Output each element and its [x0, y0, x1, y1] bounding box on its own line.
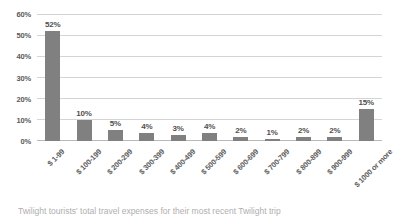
x-axis-slot: $ 1000 or more — [351, 142, 382, 194]
bar: 4% — [139, 133, 154, 142]
bar-value-label: 15% — [359, 98, 374, 107]
bar: 52% — [45, 31, 60, 141]
bar-slot: 52% — [37, 14, 68, 141]
y-axis-tick: 0% — [21, 137, 31, 146]
bar-slot: 5% — [100, 14, 131, 141]
bar: 10% — [77, 120, 92, 141]
bar-slot: 15% — [351, 14, 382, 141]
x-axis-slot: $ 800-899 — [288, 142, 319, 194]
bar: 3% — [171, 135, 186, 141]
bar-value-label: 2% — [235, 126, 246, 135]
x-axis-slot: $ 400-499 — [162, 142, 193, 194]
bar: 2% — [296, 137, 311, 141]
bar-value-label: 10% — [76, 109, 91, 118]
x-axis-slot: $ 500-599 — [194, 142, 225, 194]
y-axis-tick: 40% — [17, 52, 31, 61]
x-axis-tick: $ 1000 or more — [353, 147, 395, 189]
bar-slot: 2% — [225, 14, 256, 141]
bar-value-label: 2% — [329, 126, 340, 135]
bar-value-label: 4% — [204, 122, 215, 131]
bar-value-label: 52% — [45, 20, 60, 29]
bar: 5% — [108, 130, 123, 141]
bar-slot: 1% — [257, 14, 288, 141]
x-axis-slot: $ 600-699 — [225, 142, 256, 194]
caption-region: Twilight tourists' total travel expenses… — [0, 206, 387, 218]
bar-slot: 3% — [162, 14, 193, 141]
x-axis-slot: $ 1-99 — [37, 142, 68, 194]
x-axis-slot: $ 700-799 — [257, 142, 288, 194]
bar-value-label: 2% — [298, 126, 309, 135]
x-axis-slot: $ 900-999 — [319, 142, 350, 194]
y-axis-tick: 10% — [17, 115, 31, 124]
bar-slot: 4% — [194, 14, 225, 141]
bar-slot: 4% — [131, 14, 162, 141]
bar: 4% — [202, 133, 217, 142]
chart-caption: Twilight tourists' total travel expenses… — [18, 206, 370, 217]
y-axis-tick: 50% — [17, 31, 31, 40]
y-axis-tick: 30% — [17, 73, 31, 82]
bar-slot: 2% — [288, 14, 319, 141]
y-axis: 60% 50% 40% 30% 20% 10% 0% — [0, 14, 34, 141]
bar: 2% — [327, 137, 342, 141]
x-axis-slot: $ 200-299 — [100, 142, 131, 194]
bar: 2% — [233, 137, 248, 141]
x-axis-tick: $ 1-99 — [45, 147, 66, 168]
bar-value-label: 4% — [141, 122, 152, 131]
plot-area: 52% 10% 5% 4% 3% — [37, 14, 382, 141]
y-axis-tick: 60% — [17, 10, 31, 19]
bar: 15% — [359, 109, 374, 141]
bar-value-label: 3% — [173, 124, 184, 133]
x-axis-slot: $ 100-199 — [68, 142, 99, 194]
y-axis-tick: 20% — [17, 94, 31, 103]
x-axis: $ 1-99 $ 100-199 $ 200-299 $ 300-399 $ 4… — [37, 142, 382, 194]
bar-value-label: 5% — [110, 119, 121, 128]
bar-slot: 10% — [68, 14, 99, 141]
bar: 1% — [265, 139, 280, 141]
bar-value-label: 1% — [267, 128, 278, 137]
x-axis-slot: $ 300-399 — [131, 142, 162, 194]
bar-slot: 2% — [319, 14, 350, 141]
bar-series: 52% 10% 5% 4% 3% — [37, 14, 382, 141]
